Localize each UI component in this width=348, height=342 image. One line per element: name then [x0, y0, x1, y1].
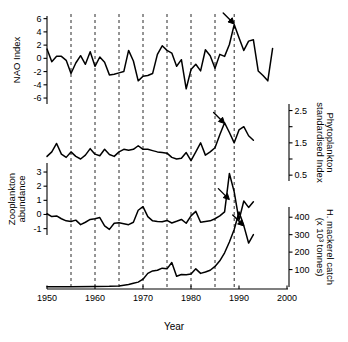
multi-panel-timeseries-chart: -6-4-20246NAO Index0.51.52.5Phytoplankto… — [0, 0, 348, 342]
figure-container: -6-4-20246NAO Index0.51.52.5Phytoplankto… — [0, 0, 348, 342]
y-tick-label: 300 — [295, 230, 310, 240]
x-tick-label: 2000 — [277, 293, 297, 303]
y-tick-label: 0 — [36, 53, 41, 63]
y-tick-label: 200 — [295, 247, 310, 257]
y-tick-label: -1 — [33, 224, 41, 234]
y-tick-label: 4 — [36, 27, 41, 37]
y-tick-label: 100 — [295, 265, 310, 275]
x-tick-label: 1980 — [181, 293, 201, 303]
y-tick-label: 0 — [36, 209, 41, 219]
y-tick-label: -4 — [33, 80, 41, 90]
x-tick-label: 1970 — [133, 293, 153, 303]
panel-zooplankton: -10123Zooplanktonabundance — [6, 163, 253, 235]
x-tick-label: 1960 — [85, 293, 105, 303]
y-axis-title-zooplankton: Zooplanktonabundance — [6, 173, 27, 225]
y-axis-title-nao-index: NAO Index — [11, 37, 22, 84]
series-line-phytoplankton — [47, 123, 253, 161]
panels-group: -6-4-20246NAO Index0.51.52.5Phytoplankto… — [6, 14, 336, 287]
y-tick-label: -6 — [33, 93, 41, 103]
y-tick-label: 2.5 — [295, 106, 308, 116]
x-tick-label: 1950 — [37, 293, 57, 303]
panel-nao-index: -6-4-20246NAO Index — [11, 14, 273, 104]
y-tick-label: 2 — [36, 40, 41, 50]
x-tick-label: 1990 — [229, 293, 249, 303]
y-tick-label: -2 — [33, 67, 41, 77]
series-line-zooplankton — [47, 173, 253, 229]
y-tick-label: 1.5 — [295, 138, 308, 148]
y-tick-label: 6 — [36, 14, 41, 24]
y-tick-label: 2 — [36, 181, 41, 191]
y-axis-title-phytoplankton: Phytoplanktonstandardised Index — [315, 102, 336, 183]
series-line-nao-index — [47, 25, 273, 89]
x-axis: 195019601970198019902000 — [37, 286, 297, 304]
y-tick-label: 1 — [36, 195, 41, 205]
x-axis-title: Year — [164, 321, 185, 332]
y-axis-title-mackerel-catch: H. mackerel catch(x 10³ tonnes) — [315, 209, 336, 285]
y-tick-label: 0.5 — [295, 170, 308, 180]
y-tick-label: 3 — [36, 167, 41, 177]
y-tick-label: 400 — [295, 212, 310, 222]
nao-arrow — [223, 13, 234, 24]
